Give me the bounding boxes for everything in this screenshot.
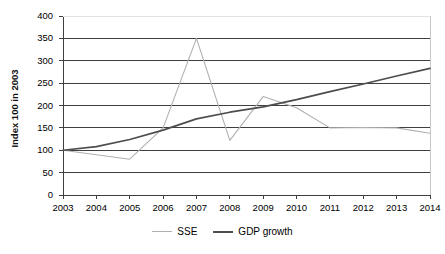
series-line-sse [63,38,430,159]
y-axis-tick-marks [59,16,63,195]
y-tick-label: 50 [23,168,53,178]
y-tick-label: 200 [23,101,53,111]
legend-item[interactable]: GDP growth [213,226,292,237]
data-series-layer [63,38,430,159]
legend-item[interactable]: SSE [152,226,197,237]
legend-swatch-line-icon [213,231,233,233]
x-tick-label: 2014 [410,203,445,213]
y-tick-label: 300 [23,56,53,66]
legend-label: SSE [177,226,197,237]
legend-label: GDP growth [238,226,292,237]
chart-legend: SSEGDP growth [0,226,445,237]
y-tick-label: 400 [23,11,53,21]
y-tick-label: 100 [23,145,53,155]
series-line-gdp-growth [63,68,430,150]
y-tick-label: 150 [23,123,53,133]
gridlines [63,16,430,173]
y-tick-label: 250 [23,78,53,88]
y-axis-title-text: Index 100 in 2003 [9,69,20,147]
legend-swatch-line-icon [152,231,172,232]
x-axis-tick-marks [63,195,430,199]
plot-area [0,0,445,254]
line-chart: Index 100 in 2003 0501001502002503003504… [0,0,445,254]
y-tick-label: 350 [23,33,53,43]
y-tick-label: 0 [23,190,53,200]
